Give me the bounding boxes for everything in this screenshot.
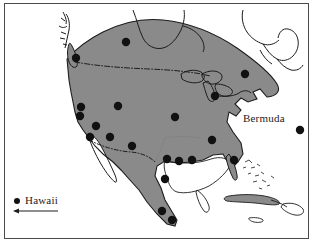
marker-great-lakes xyxy=(211,92,219,100)
marker-northeast xyxy=(241,70,249,78)
marker-southeast-inland xyxy=(208,136,216,144)
marker-northern-rockies xyxy=(114,102,122,110)
marker-great-plains xyxy=(171,113,179,121)
marker-vancouver-island xyxy=(72,54,80,62)
marker-gulf-coast-east xyxy=(188,156,196,164)
bahamas-islands xyxy=(243,160,274,189)
marker-florida xyxy=(230,156,238,164)
marker-pacific-northwest xyxy=(77,103,85,111)
marker-southern-mexico xyxy=(168,216,176,224)
north-america-distribution-map: Bermuda Hawaii xyxy=(0,0,316,246)
marker-northern-mexico xyxy=(161,175,169,183)
cuba-island xyxy=(224,195,287,207)
hawaii-legend-dot xyxy=(14,198,20,204)
marker-gulf-louisiana xyxy=(175,157,183,165)
marker-gulf-texas xyxy=(163,155,171,163)
marker-central-canada xyxy=(122,38,130,46)
marker-northern-california xyxy=(76,112,84,120)
bermuda-label: Bermuda xyxy=(243,112,285,124)
marker-southwest xyxy=(106,133,114,141)
marker-arizona xyxy=(128,142,136,150)
marker-southern-california xyxy=(86,133,94,141)
marker-central-california xyxy=(92,122,100,130)
map-frame-border: Bermuda Hawaii xyxy=(4,3,309,239)
marker-bermuda xyxy=(296,126,304,134)
hawaii-offscreen-arrow xyxy=(13,207,59,215)
hawaii-label: Hawaii xyxy=(25,194,58,206)
marker-central-mexico xyxy=(158,207,166,215)
